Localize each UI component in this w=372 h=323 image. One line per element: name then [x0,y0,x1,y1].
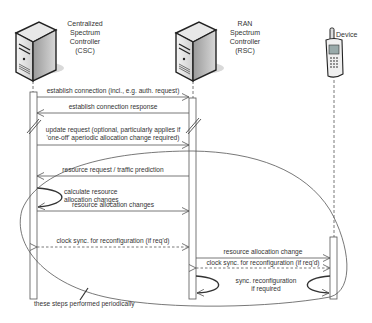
csc-server-icon [16,22,64,81]
actor-line: (CSC) [58,46,112,55]
label-line: calculate resource [64,188,119,196]
self-loop-rsc-sync [196,276,219,293]
label-establish-response: establish connection response [37,103,189,111]
rsc-lifeline [189,81,196,299]
label-line: update request (optional, particularly a… [37,126,189,134]
label-resource-allocation-changes: resource allocation changes [37,201,189,209]
annotation-periodic: these steps performed periodically [34,300,134,308]
actor-line: RAN [220,19,270,28]
label-clock-sync-rsc-device: clock sync. for reconfiguration (if req'… [196,259,330,267]
actor-line: (RSC) [220,46,270,55]
label-clock-sync-csc-rsc: clock sync. for reconfiguration (if req'… [37,237,189,245]
actor-line: Controller [58,37,112,46]
label-update-request: update request (optional, particularly a… [37,126,189,142]
actor-line: Spectrum [58,28,112,37]
actor-line: Centralized [58,19,112,28]
label-establish-connection: establish connection (incl., e.g. auth. … [37,87,189,95]
rsc-server-icon [176,22,224,81]
self-loop-device-sync [307,276,330,293]
sequence-diagram-canvas [0,0,372,323]
device-lifeline [330,80,337,299]
actor-line: Spectrum [220,28,270,37]
label-line: if required [226,285,306,293]
actor-label-device: Device [336,30,366,39]
label-line: sync. reconfiguration [226,277,306,285]
label-resource-request: resource request / traffic prediction [37,166,189,174]
label-line: 'one-off' aperiodic allocation change re… [37,134,189,142]
actor-line: Controller [220,37,270,46]
label-sync-reconfiguration: sync. reconfiguration if required [226,277,306,293]
actor-line: Device [336,30,366,39]
actor-label-csc: Centralized Spectrum Controller (CSC) [58,19,112,55]
label-resource-allocation-change: resource allocation change [196,248,330,256]
actor-label-rsc: RAN Spectrum Controller (RSC) [220,19,270,55]
